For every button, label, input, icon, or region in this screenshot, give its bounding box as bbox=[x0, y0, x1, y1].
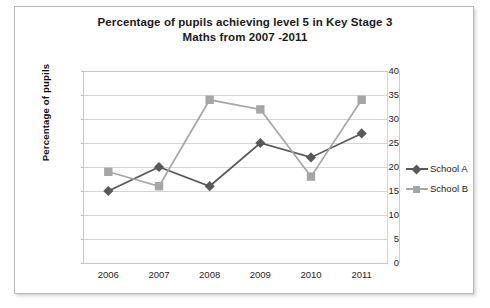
y-axis-tick-label: 5 bbox=[373, 233, 399, 244]
legend-swatch-school-a-icon bbox=[406, 164, 428, 174]
screenshot-root: Percentage of pupils achieving level 5 i… bbox=[0, 0, 490, 308]
data-point-marker bbox=[306, 152, 316, 162]
y-axis-title: Percentage of pupils bbox=[40, 53, 51, 173]
x-axis-tick-label: 2010 bbox=[289, 269, 333, 280]
x-axis-tick-label: 2008 bbox=[188, 269, 232, 280]
data-point-marker bbox=[154, 162, 164, 172]
y-axis-tick-label: 30 bbox=[373, 113, 399, 124]
chart-legend: School A School B bbox=[399, 71, 476, 263]
data-point-marker bbox=[307, 172, 315, 180]
y-axis-tick-label: 40 bbox=[373, 65, 399, 76]
legend-swatch-school-b-icon bbox=[406, 184, 428, 194]
x-axis-tick-label: 2009 bbox=[238, 269, 282, 280]
y-axis-tick-label: 25 bbox=[373, 137, 399, 148]
y-axis-tick-label: 10 bbox=[373, 209, 399, 220]
data-point-marker bbox=[357, 128, 367, 138]
legend-item-school-a: School A bbox=[406, 163, 468, 174]
y-axis-tick-label: 0 bbox=[373, 257, 399, 268]
y-axis-tickmark bbox=[81, 263, 84, 264]
series-layer bbox=[83, 71, 387, 263]
data-point-marker bbox=[256, 105, 264, 113]
x-axis-tick-label: 2007 bbox=[137, 269, 181, 280]
data-point-marker bbox=[104, 168, 112, 176]
legend-label-school-a: School A bbox=[429, 163, 468, 174]
chart-frame: Percentage of pupils achieving level 5 i… bbox=[14, 6, 474, 294]
legend-item-school-b: School B bbox=[406, 183, 468, 194]
data-point-marker bbox=[357, 96, 365, 104]
data-point-marker bbox=[155, 182, 163, 190]
chart-title-line-2: Maths from 2007 -2011 bbox=[45, 30, 445, 45]
data-point-marker bbox=[205, 96, 213, 104]
y-axis-tick-label: 15 bbox=[373, 185, 399, 196]
y-axis-tick-label: 35 bbox=[373, 89, 399, 100]
x-axis-tick-label: 2006 bbox=[86, 269, 130, 280]
chart-title: Percentage of pupils achieving level 5 i… bbox=[45, 15, 445, 45]
y-axis-tick-label: 20 bbox=[373, 161, 399, 172]
legend-label-school-b: School B bbox=[429, 183, 468, 194]
data-point-marker bbox=[103, 186, 113, 196]
chart-title-line-1: Percentage of pupils achieving level 5 i… bbox=[98, 16, 393, 28]
x-axis-tick-label: 2011 bbox=[340, 269, 384, 280]
